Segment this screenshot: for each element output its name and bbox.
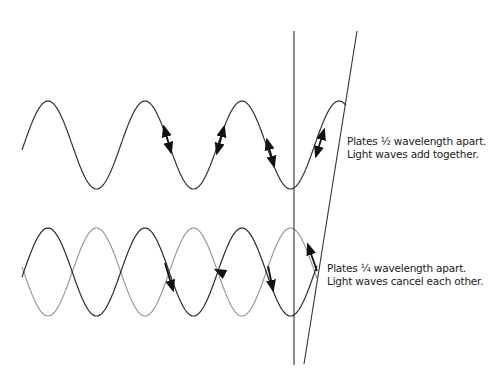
arrow-icon xyxy=(164,127,171,152)
slanted-plate-line xyxy=(304,31,357,364)
top-wave-group xyxy=(22,101,346,189)
top-caption-line-1: Plates ½ wavelength apart. xyxy=(347,135,486,148)
arrow-icon xyxy=(316,130,324,156)
bottom-caption-line-2: Light waves cancel each other. xyxy=(327,275,483,288)
top-caption: Plates ½ wavelength apart. Light waves a… xyxy=(347,135,486,161)
bottom-caption-line-1: Plates ¼ wavelength apart. xyxy=(327,262,483,275)
wave-interference-diagram xyxy=(0,0,490,382)
arrow-icon xyxy=(267,140,274,166)
arrow-icon xyxy=(216,270,218,271)
top-caption-line-2: Light waves add together. xyxy=(347,148,486,161)
bottom-wave-group xyxy=(22,228,317,316)
arrow-icon xyxy=(217,127,224,153)
bottom-light-wave-dark xyxy=(22,228,317,316)
top-displacement-arrows xyxy=(164,127,324,166)
arrow-icon xyxy=(165,263,173,290)
bottom-caption: Plates ¼ wavelength apart. Light waves c… xyxy=(327,262,483,288)
top-light-wave xyxy=(22,101,346,189)
